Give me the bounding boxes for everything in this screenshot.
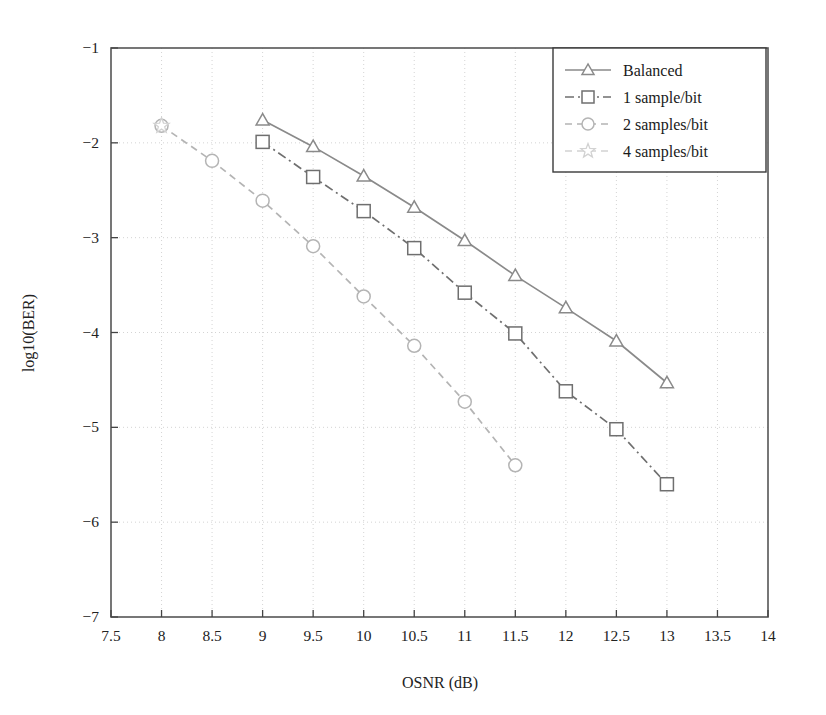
data-point-marker xyxy=(458,234,471,245)
x-tick-label: 9.5 xyxy=(303,627,323,644)
legend-item-label: 1 sample/bit xyxy=(623,89,702,107)
data-point-marker xyxy=(458,286,471,299)
chart-figure: 7.588.599.51010.51111.51212.51313.514−1−… xyxy=(0,0,826,715)
x-tick-label: 10 xyxy=(356,627,372,644)
y-tick-label: −3 xyxy=(83,229,100,246)
data-point-marker xyxy=(256,194,269,207)
y-tick-label: −4 xyxy=(83,324,100,341)
data-point-marker xyxy=(582,91,594,103)
chart-legend: Balanced1 sample/bit2 samples/bit4 sampl… xyxy=(553,48,766,172)
data-point-marker xyxy=(206,154,219,167)
x-tick-label: 13 xyxy=(659,627,675,644)
x-tick-label: 13.5 xyxy=(704,627,731,644)
y-tick-label: −2 xyxy=(83,134,100,151)
data-point-marker xyxy=(408,242,421,255)
data-point-marker xyxy=(660,478,673,491)
data-point-marker xyxy=(357,170,370,181)
y-tick-label: −6 xyxy=(83,513,100,530)
x-tick-label: 10.5 xyxy=(401,627,428,644)
data-point-marker xyxy=(357,290,370,303)
x-tick-label: 11.5 xyxy=(502,627,529,644)
data-point-marker xyxy=(307,240,320,253)
y-axis-label: log10(BER) xyxy=(20,294,38,372)
y-tick-label: −1 xyxy=(83,39,100,56)
data-point-marker xyxy=(307,140,320,151)
data-point-marker xyxy=(559,301,572,312)
data-point-marker xyxy=(256,135,269,148)
x-tick-label: 8.5 xyxy=(202,627,222,644)
data-point-marker xyxy=(559,385,572,398)
x-tick-label: 12 xyxy=(558,627,574,644)
data-point-marker xyxy=(582,118,594,130)
data-point-marker xyxy=(408,339,421,352)
data-point-marker xyxy=(610,423,623,436)
y-tick-label: −7 xyxy=(83,608,100,625)
data-point-marker xyxy=(256,114,269,125)
data-point-marker xyxy=(357,205,370,218)
data-point-marker xyxy=(307,170,320,183)
data-point-marker xyxy=(509,459,522,472)
data-point-marker xyxy=(458,395,471,408)
y-tick-label: −5 xyxy=(83,418,100,435)
x-tick-label: 7.5 xyxy=(101,627,121,644)
x-tick-label: 14 xyxy=(760,627,776,644)
legend-item-label: 2 samples/bit xyxy=(623,116,708,134)
x-tick-label: 8 xyxy=(158,627,166,644)
chart-canvas: 7.588.599.51010.51111.51212.51313.514−1−… xyxy=(0,0,826,715)
data-point-marker xyxy=(408,201,421,212)
x-tick-label: 9 xyxy=(259,627,267,644)
legend-item-label: Balanced xyxy=(623,62,683,79)
x-tick-label: 12.5 xyxy=(603,627,630,644)
data-point-marker xyxy=(509,327,522,340)
x-axis-label: OSNR (dB) xyxy=(402,674,478,692)
legend-item-label: 4 samples/bit xyxy=(623,143,708,161)
data-point-marker xyxy=(509,269,522,280)
x-tick-label: 11 xyxy=(457,627,472,644)
data-point-marker xyxy=(610,335,623,346)
